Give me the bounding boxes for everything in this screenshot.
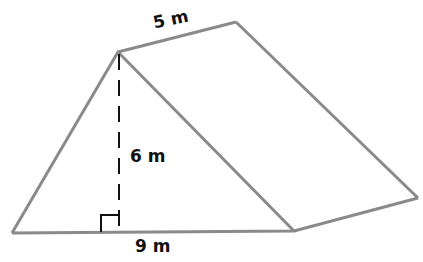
triangular-prism-diagram	[0, 0, 423, 262]
right-angle-marker	[101, 215, 119, 232]
base-label: 9 m	[135, 238, 170, 255]
back-slant-edge	[236, 22, 418, 198]
bottom-right-edge	[294, 198, 418, 231]
front-triangle-face	[12, 52, 294, 233]
height-label: 6 m	[130, 148, 165, 165]
